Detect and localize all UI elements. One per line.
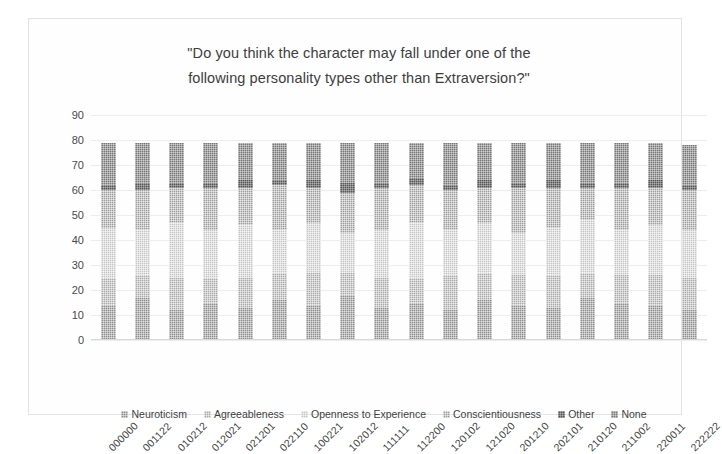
bar-column[interactable] xyxy=(135,143,150,341)
y-axis-tick-80: 80 xyxy=(72,134,84,146)
x-axis-label: 121020 xyxy=(483,419,517,453)
bar-segment-conscientiousness xyxy=(169,188,184,223)
y-axis-tick-20: 20 xyxy=(72,284,84,296)
legend-item-none[interactable]: None xyxy=(611,408,646,420)
bar-column[interactable] xyxy=(238,143,253,341)
bar-segment-openness-to-experience xyxy=(135,230,150,275)
legend-label: None xyxy=(621,408,646,420)
bar-segment-openness-to-experience xyxy=(169,223,184,278)
legend-swatch-icon xyxy=(558,411,565,418)
bar-segment-conscientiousness xyxy=(511,188,526,233)
bar-segment-neuroticism xyxy=(409,303,424,341)
bar-column[interactable] xyxy=(682,145,697,340)
x-axis-label: 202101 xyxy=(551,419,585,453)
bar-segment-agreeableness xyxy=(306,273,321,306)
bar-segment-openness-to-experience xyxy=(546,228,561,276)
bar-segment-neuroticism xyxy=(580,298,595,341)
legend-swatch-icon xyxy=(204,411,211,418)
bar-segment-none xyxy=(409,143,424,178)
bar-segment-openness-to-experience xyxy=(648,225,663,275)
chart-title-line-2: following personality types other than E… xyxy=(89,66,629,91)
x-axis-label: 000000 xyxy=(106,419,140,453)
bar-segment-other xyxy=(409,178,424,186)
bar-segment-agreeableness xyxy=(682,278,697,311)
bar-segment-none xyxy=(340,143,355,183)
bar-segment-conscientiousness xyxy=(614,188,629,231)
bar-segment-none xyxy=(238,143,253,181)
x-axis-label: 021201 xyxy=(243,419,277,453)
bar-segment-conscientiousness xyxy=(546,188,561,228)
bar-column[interactable] xyxy=(374,143,389,341)
bar-segment-neuroticism xyxy=(546,308,561,341)
x-axis-label: 120102 xyxy=(448,419,482,453)
legend-item-neuroticism[interactable]: Neuroticism xyxy=(121,408,186,420)
legend-item-agreeableness[interactable]: Agreeableness xyxy=(204,408,284,420)
bar-column[interactable] xyxy=(409,143,424,341)
bar-segment-none xyxy=(101,143,116,186)
bar-segment-none xyxy=(682,145,697,185)
bar-column[interactable] xyxy=(306,143,321,341)
bar-segment-neuroticism xyxy=(203,303,218,341)
x-axis-label: 100221 xyxy=(311,419,345,453)
bar-column[interactable] xyxy=(203,143,218,341)
bar-column[interactable] xyxy=(169,143,184,341)
bar-segment-openness-to-experience xyxy=(511,233,526,276)
legend-item-other[interactable]: Other xyxy=(558,408,594,420)
bar-segment-neuroticism xyxy=(169,310,184,340)
bar-segment-agreeableness xyxy=(546,275,561,308)
chart-title-line-1: "Do you think the character may fall und… xyxy=(89,41,629,66)
bar-column[interactable] xyxy=(546,143,561,341)
bar-segment-conscientiousness xyxy=(682,190,697,230)
chart-legend: NeuroticismAgreeablenessOpenness to Expe… xyxy=(57,408,711,420)
bar-column[interactable] xyxy=(101,143,116,341)
plot-area: 0102030405060708090 00000000112201021201… xyxy=(91,115,707,340)
bar-segment-conscientiousness xyxy=(648,188,663,226)
bar-segment-agreeableness xyxy=(101,278,116,306)
bar-segment-neuroticism xyxy=(340,295,355,340)
bar-segment-openness-to-experience xyxy=(340,233,355,273)
bar-segment-conscientiousness xyxy=(135,190,150,230)
x-axis-line xyxy=(91,339,707,340)
x-axis-label: 222222 xyxy=(688,419,722,453)
bar-segment-none xyxy=(169,143,184,183)
x-axis-label: 111111 xyxy=(380,422,411,453)
legend-item-openness-to-experience[interactable]: Openness to Experience xyxy=(301,408,426,420)
bar-segment-none xyxy=(306,143,321,181)
bar-segment-none xyxy=(374,143,389,183)
bar-segment-agreeableness xyxy=(443,275,458,310)
bar-segment-openness-to-experience xyxy=(580,220,595,273)
legend-swatch-icon xyxy=(611,411,618,418)
bar-segment-agreeableness xyxy=(238,278,253,308)
bar-segment-other xyxy=(238,180,253,188)
bar-segment-agreeableness xyxy=(409,278,424,303)
bar-segment-other xyxy=(135,183,150,191)
bar-column[interactable] xyxy=(272,143,287,341)
bar-segment-neuroticism xyxy=(614,303,629,341)
bar-segment-none xyxy=(272,143,287,181)
chart-title: "Do you think the character may fall und… xyxy=(89,41,629,91)
bar-column[interactable] xyxy=(580,143,595,341)
x-axis-label: 010212 xyxy=(175,419,209,453)
bar-column[interactable] xyxy=(511,143,526,341)
bar-column[interactable] xyxy=(614,143,629,341)
x-axis-label: 012021 xyxy=(209,419,243,453)
bar-segment-other xyxy=(648,180,663,188)
legend-item-conscientiousness[interactable]: Conscientiousness xyxy=(443,408,541,420)
bar-segment-conscientiousness xyxy=(101,190,116,228)
gridline-90 xyxy=(91,115,707,116)
bar-segment-conscientiousness xyxy=(238,188,253,226)
y-axis-tick-0: 0 xyxy=(78,334,84,346)
legend-label: Conscientiousness xyxy=(453,408,541,420)
bar-column[interactable] xyxy=(340,143,355,341)
bar-segment-none xyxy=(477,143,492,181)
bar-segment-openness-to-experience xyxy=(409,223,424,278)
bar-column[interactable] xyxy=(648,143,663,341)
bar-segment-agreeableness xyxy=(340,273,355,296)
bar-column[interactable] xyxy=(477,143,492,341)
bar-segment-conscientiousness xyxy=(340,193,355,233)
bar-segment-neuroticism xyxy=(135,298,150,341)
bar-segment-neuroticism xyxy=(272,300,287,340)
legend-swatch-icon xyxy=(301,411,308,418)
y-axis-tick-10: 10 xyxy=(72,309,84,321)
bar-column[interactable] xyxy=(443,143,458,341)
